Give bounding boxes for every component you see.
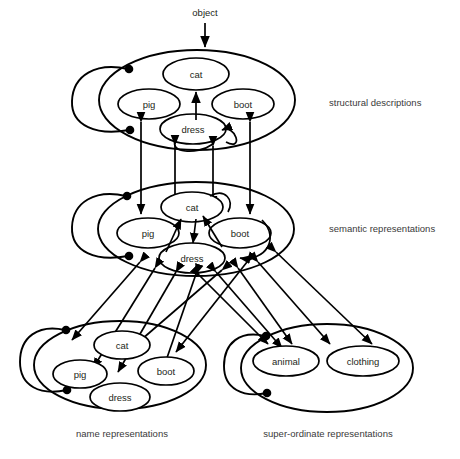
layer-semantic-representations: cat pig boot dress semantic representati…	[72, 182, 435, 276]
name-node-pig-label: pig	[74, 369, 87, 380]
name-node-boot-label: boot	[157, 366, 176, 377]
semantic-node-cat-label: cat	[186, 202, 199, 213]
semantic-node-boot-label: boot	[231, 228, 250, 239]
superordinate-loop-ball-bottom	[263, 389, 272, 398]
layer-superordinate-representations: animal clothing super-ordinate represent…	[224, 324, 413, 439]
superordinate-node-animal-label: animal	[272, 356, 300, 367]
superordinate-node-clothing-label: clothing	[347, 356, 380, 367]
semantic-node-dress-label: dress	[180, 253, 203, 264]
connections-semantic-superordinate	[200, 252, 372, 348]
structural-node-pig-label: pig	[143, 99, 156, 110]
layer-label-structural: structural descriptions	[329, 97, 422, 108]
layer-label-name: name representations	[76, 428, 168, 439]
layer-label-superordinate: super-ordinate representations	[263, 428, 393, 439]
link-semantic-name-cat	[72, 262, 140, 340]
network-architecture-diagram: object cat pig boot dress structural des…	[0, 0, 460, 459]
structural-node-cat-label: cat	[190, 69, 203, 80]
name-node-dress-label: dress	[108, 392, 131, 403]
semantic-loop-ball-bottom	[125, 252, 134, 261]
structural-loop-ball-bottom	[126, 126, 135, 135]
semantic-node-pig-label: pig	[142, 228, 155, 239]
input-label: object	[192, 7, 218, 18]
name-node-cat-label: cat	[116, 340, 129, 351]
input-object-group: object	[192, 7, 218, 47]
layer-name-representations: cat pig boot dress name representations	[20, 321, 206, 439]
layer-structural-descriptions: cat pig boot dress structural descriptio…	[72, 50, 422, 151]
structural-node-boot-label: boot	[234, 99, 253, 110]
layer-label-semantic: semantic representations	[329, 223, 435, 234]
structural-node-dress-label: dress	[181, 124, 204, 135]
